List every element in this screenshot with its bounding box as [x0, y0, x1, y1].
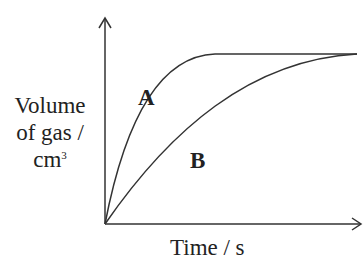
series-label-b: B	[190, 148, 205, 174]
y-label-line1: Volume	[0, 92, 100, 119]
y-label-line2: of gas /	[0, 119, 100, 146]
series-label-a: A	[138, 85, 155, 111]
curve-b	[105, 54, 357, 224]
y-label-line3: cm3	[0, 146, 100, 173]
x-axis-label: Time / s	[170, 235, 245, 261]
y-label-unit: cm	[33, 147, 61, 172]
curve-a	[105, 54, 357, 224]
y-label-superscript: 3	[61, 149, 67, 161]
y-axis-label: Volume of gas / cm3	[0, 92, 100, 173]
